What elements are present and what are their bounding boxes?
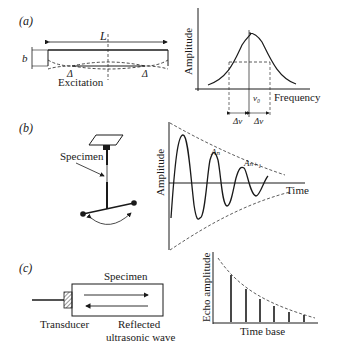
panel-a-label: (a) — [19, 14, 33, 28]
wave-label-line2: ultrasonic wave — [106, 331, 175, 343]
damped-vibration-chart: Amplitude Time Aₙ Aₙ₊₁ — [154, 122, 309, 250]
specimen-label-c: Specimen — [104, 270, 148, 282]
echo-pulses — [231, 275, 304, 322]
halfwidth-left-label: Δν — [232, 116, 242, 126]
transducer-label: Transducer — [40, 318, 89, 330]
torsion-pendulum: Specimen — [60, 135, 137, 224]
amplitude-n1-label: Aₙ₊₁ — [243, 158, 261, 168]
node-right-label: Δ — [141, 68, 148, 79]
panel-b: (b) Specimen Amplitude Time Aₙ Aₙ₊₁ — [19, 121, 309, 250]
echo-ylabel: Echo amplitude — [200, 253, 212, 322]
echo-chart: Echo amplitude Time base — [200, 252, 318, 337]
diagram-canvas: (a) L b Δ Δ Excitation — [0, 0, 337, 359]
excitation-label: Excitation — [58, 76, 104, 88]
panel-c: (c) Specimen Transducer Reflected ultras… — [19, 252, 318, 343]
panel-a: (a) L b Δ Δ Excitation — [19, 8, 321, 126]
specimen-label-b: Specimen — [60, 150, 104, 162]
transducer — [64, 292, 72, 308]
amplitude-n-label: Aₙ — [210, 147, 220, 157]
peak-frequency-label: ν₀ — [253, 93, 260, 103]
vibration-ylabel: Amplitude — [154, 149, 166, 196]
panel-b-label: (b) — [19, 121, 33, 135]
panel-c-label: (c) — [19, 261, 32, 275]
length-label: L — [99, 29, 107, 43]
thickness-label: b — [22, 52, 28, 64]
echo-xlabel: Time base — [240, 325, 285, 337]
specimen-block — [72, 284, 163, 316]
ultrasonic-setup: Specimen Transducer Reflected ultrasonic… — [32, 270, 175, 343]
resonance-ylabel: Amplitude — [182, 28, 194, 75]
halfwidth-right-label: Δν — [253, 116, 263, 126]
resonance-chart: Amplitude Frequency ν₀ Δν Δν — [182, 8, 321, 126]
resonance-bar: L b Δ Δ Excitation — [22, 29, 168, 88]
resonance-xlabel: Frequency — [274, 91, 321, 103]
wave-label-line1: Reflected — [118, 318, 161, 330]
vibration-xlabel: Time — [286, 184, 309, 196]
